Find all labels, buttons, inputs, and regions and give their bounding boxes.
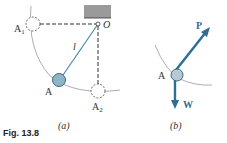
label-length: l	[73, 41, 76, 52]
label-o: O	[103, 19, 110, 30]
bob-a	[53, 74, 66, 87]
pivot-o	[96, 22, 100, 26]
position-a2	[91, 84, 105, 98]
bob-a-b	[171, 69, 183, 81]
label-a2: A2	[92, 101, 103, 114]
label-a-b: A	[158, 70, 166, 81]
string	[61, 24, 98, 78]
label-p: P	[196, 20, 202, 31]
pendulum-diagram: A1 O l A A2 (a) A P W (b)	[0, 0, 227, 143]
position-a1	[26, 17, 40, 31]
label-a: A	[45, 86, 53, 97]
label-a1: A1	[14, 23, 25, 36]
label-w: W	[183, 99, 193, 110]
force-p-arrow	[176, 32, 206, 70]
label-panel-a: (a)	[58, 120, 70, 132]
figure-caption: Fig. 13.8	[3, 128, 39, 138]
panel-a: A1 O l A A2 (a)	[14, 5, 120, 132]
arrowhead-w-icon	[171, 100, 179, 109]
ceiling-support	[84, 5, 111, 18]
label-panel-b: (b)	[170, 120, 182, 132]
panel-b: A P W (b)	[155, 20, 212, 132]
